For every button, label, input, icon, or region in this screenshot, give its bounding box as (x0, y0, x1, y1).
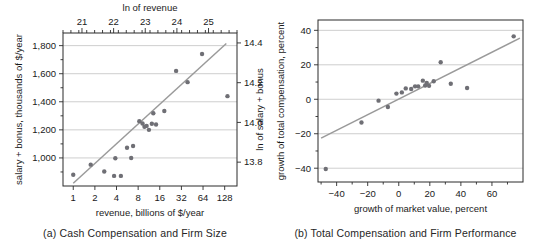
y2-tick-label-a: 14.4 (244, 37, 263, 48)
y-axis-title-a: salary + bonus, thousands of $/year (13, 34, 24, 185)
chart-panel-a: 1,0001,2001,4001,6001,80013.814.014.214.… (0, 0, 270, 247)
x-tick-label-b: 40 (456, 188, 467, 199)
data-point-b (400, 90, 404, 94)
data-point-b (409, 87, 413, 91)
data-point-b (421, 78, 425, 82)
chart-panel-b: −40−2002040−40−200204060growth of market… (270, 0, 541, 247)
panel-b-caption: (b) Total Compensation and Firm Performa… (270, 227, 541, 239)
y-axis-title-b: growth of total compensation, percent (275, 21, 286, 180)
y-tick-label-a: 1,600 (32, 68, 56, 79)
data-point-b (465, 86, 469, 90)
x2-tick-label-a: 24 (172, 16, 183, 27)
regression-line-b (321, 38, 520, 138)
y-tick-label-a: 1,400 (32, 96, 56, 107)
x2-tick-label-a: 21 (77, 16, 88, 27)
data-point-a (185, 80, 189, 84)
data-point-a (147, 128, 151, 132)
x-tick-label-a: 64 (198, 192, 209, 203)
x2-tick-label-a: 23 (140, 16, 151, 27)
data-point-b (324, 167, 328, 171)
data-point-a (112, 174, 116, 178)
data-point-b (359, 120, 363, 124)
scatter-plot-a: 1,0001,2001,4001,6001,80013.814.014.214.… (0, 0, 270, 247)
x2-tick-label-a: 22 (108, 16, 119, 27)
data-point-b (438, 60, 442, 64)
data-point-a (154, 122, 158, 126)
data-point-a (89, 162, 93, 166)
x-tick-label-b: −40 (329, 188, 345, 199)
x-tick-label-b: 0 (396, 188, 401, 199)
regression-line-a (73, 44, 226, 184)
data-point-a (102, 169, 106, 173)
y2-tick-label-a: 13.8 (244, 156, 263, 167)
plot-frame-b (318, 20, 523, 182)
x-tick-label-b: 60 (487, 188, 498, 199)
x-tick-label-a: 4 (114, 192, 119, 203)
data-point-a (119, 174, 123, 178)
data-point-a (113, 156, 117, 160)
data-point-b (427, 84, 431, 88)
x-tick-label-b: −20 (360, 188, 376, 199)
data-point-b (394, 91, 398, 95)
x2-tick-label-a: 25 (203, 16, 214, 27)
data-point-b (449, 82, 453, 86)
y2-axis-title-a: ln of salary + bonus (254, 68, 265, 151)
data-point-a (151, 111, 155, 115)
x-tick-label-a: 32 (176, 192, 187, 203)
y-tick-label-b: −20 (295, 128, 311, 139)
data-point-b (376, 98, 380, 102)
x-tick-label-a: 2 (92, 192, 97, 203)
y-tick-label-b: 0 (306, 94, 311, 105)
figure-root: 1,0001,2001,4001,6001,80013.814.014.214.… (0, 0, 541, 247)
y-tick-label-b: 40 (300, 25, 311, 36)
y-tick-label-a: 1,800 (32, 40, 56, 51)
data-point-b (386, 105, 390, 109)
data-point-a (150, 122, 154, 126)
data-point-a (200, 52, 204, 56)
x-tick-label-a: 128 (217, 192, 233, 203)
data-point-a (125, 145, 129, 149)
x-tick-label-a: 1 (71, 192, 76, 203)
data-point-b (416, 84, 420, 88)
data-point-b (511, 34, 515, 38)
panel-a-caption: (a) Cash Compensation and Firm Size (0, 227, 270, 239)
data-point-a (129, 156, 133, 160)
data-point-a (174, 69, 178, 73)
y-tick-label-a: 1,000 (32, 152, 56, 163)
data-point-b (404, 86, 408, 90)
plot-frame-a (63, 33, 237, 186)
scatter-plot-b: −40−2002040−40−200204060growth of market… (270, 0, 541, 247)
data-point-a (144, 124, 148, 128)
y-tick-label-a: 1,200 (32, 124, 56, 135)
x-axis-title-a: revenue, billions of $/year (96, 207, 204, 218)
x-tick-label-b: 20 (425, 188, 436, 199)
top-axis-title-a: ln of revenue (123, 2, 178, 13)
data-point-a (71, 173, 75, 177)
data-point-a (225, 94, 229, 98)
data-point-a (162, 109, 166, 113)
x-tick-label-a: 8 (135, 192, 140, 203)
data-point-b (432, 79, 436, 83)
y-tick-label-b: −40 (295, 163, 311, 174)
data-point-a (131, 144, 135, 148)
y-tick-label-b: 20 (300, 59, 311, 70)
x-axis-title-b: growth of market value, percent (354, 203, 487, 214)
x-tick-label-a: 16 (154, 192, 165, 203)
